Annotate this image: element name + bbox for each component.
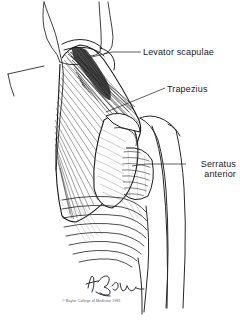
illustration-canvas: Levator scapulae Trapezius Serratusanter… xyxy=(0,0,240,320)
levator-scapulae-muscle xyxy=(72,47,112,100)
label-serratus-anterior-line2: anterior xyxy=(204,169,236,179)
lower-trapezius-hatching xyxy=(58,190,102,242)
label-levator-scapulae: Levator scapulae xyxy=(143,47,214,57)
torso-side-outline xyxy=(138,206,149,314)
rib-cage-lines xyxy=(62,196,147,267)
label-trapezius: Trapezius xyxy=(167,84,208,94)
label-serratus-anterior-line1: Serratus xyxy=(201,159,236,169)
artist-signature xyxy=(86,276,144,296)
label-serratus-anterior: Serratusanterior xyxy=(188,159,236,179)
copyright-notice: © Baylor College of Medicine 1981 xyxy=(62,299,121,304)
